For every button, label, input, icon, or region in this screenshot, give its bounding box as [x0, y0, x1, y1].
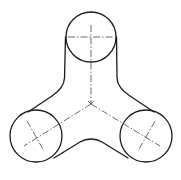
right-upper-contour	[117, 37, 155, 112]
bottom-contour	[54, 139, 128, 158]
centerlines	[24, 25, 160, 151]
bottom-left-boss-circle	[10, 110, 62, 162]
left-upper-contour	[28, 37, 66, 112]
bottom-right-boss-cross-centerline	[138, 121, 155, 151]
bottom-left-boss-cross-centerline	[27, 121, 44, 151]
three-lobe-part-drawing	[0, 0, 181, 180]
drawing-canvas	[0, 0, 181, 180]
bottom-right-boss-circle	[120, 110, 172, 162]
